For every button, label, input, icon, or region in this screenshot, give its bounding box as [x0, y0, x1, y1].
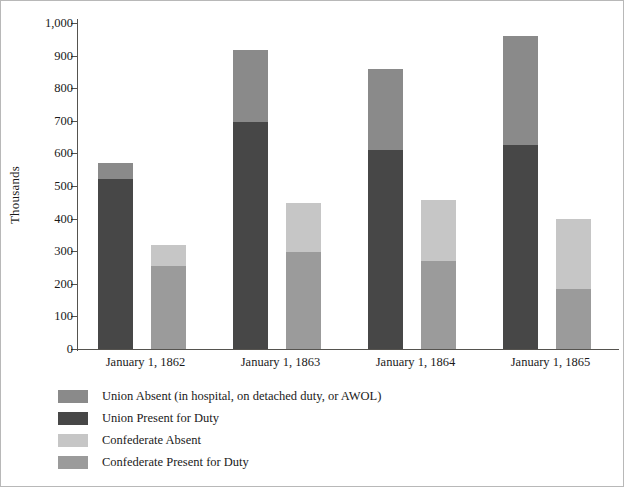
bar-union [98, 163, 133, 349]
bar-group [483, 23, 618, 349]
y-axis-title-label: Thousands [7, 166, 23, 224]
y-tick-label: 100 [54, 310, 73, 323]
bar-union [368, 69, 403, 349]
bar-segment [421, 200, 456, 261]
bar-segment [151, 245, 186, 266]
legend-item: Confederate Present for Duty [58, 451, 578, 473]
plot-area: 1,0009008007006005004003002001000 [78, 23, 618, 349]
bar-confederate [151, 245, 186, 349]
y-tick-label: 200 [54, 278, 73, 291]
bar-segment [233, 122, 268, 349]
bar-segment [286, 203, 321, 252]
chart-figure: Thousands 1,0009008007006005004003002001… [0, 0, 624, 487]
bar-segment [368, 69, 403, 150]
legend-item: Union Absent (in hospital, on detached d… [58, 385, 578, 407]
legend-swatch [58, 434, 88, 447]
bar-segment [98, 179, 133, 349]
bar-union [233, 50, 268, 349]
bar-segment [556, 219, 591, 288]
legend-swatch [58, 412, 88, 425]
bar-segment [368, 150, 403, 350]
y-tick-label: 700 [54, 115, 73, 128]
legend-swatch [58, 456, 88, 469]
y-tick-label: 0 [67, 343, 73, 356]
bar-segment [151, 266, 186, 349]
y-tick-label: 900 [54, 49, 73, 62]
y-tick-label: 1,000 [45, 17, 73, 30]
y-tick-label: 500 [54, 180, 73, 193]
y-tick-label: 400 [54, 212, 73, 225]
x-axis-line [71, 349, 619, 350]
y-tick-label: 300 [54, 245, 73, 258]
bar-group [348, 23, 483, 349]
legend-item: Union Present for Duty [58, 407, 578, 429]
legend-label: Union Absent (in hospital, on detached d… [102, 389, 381, 404]
legend-label: Confederate Absent [102, 433, 201, 448]
bar-segment [98, 163, 133, 179]
legend-label: Union Present for Duty [102, 411, 219, 426]
y-axis-title: Thousands [5, 140, 25, 250]
bar-segment [503, 145, 538, 349]
legend-swatch [58, 390, 88, 403]
bar-segment [421, 261, 456, 349]
legend-label: Confederate Present for Duty [102, 455, 249, 470]
bar-segment [233, 50, 268, 123]
bar-union [503, 36, 538, 349]
bar-confederate [556, 219, 591, 349]
y-tick-label: 600 [54, 147, 73, 160]
chart-legend: Union Absent (in hospital, on detached d… [58, 385, 578, 473]
bar-segment [556, 289, 591, 349]
x-axis-label: January 1, 1865 [471, 355, 624, 370]
bar-segment [286, 252, 321, 349]
bar-confederate [286, 203, 321, 349]
y-tick-label: 800 [54, 82, 73, 95]
legend-item: Confederate Absent [58, 429, 578, 451]
bar-group [78, 23, 213, 349]
bar-confederate [421, 200, 456, 349]
bar-group [213, 23, 348, 349]
bar-segment [503, 36, 538, 145]
